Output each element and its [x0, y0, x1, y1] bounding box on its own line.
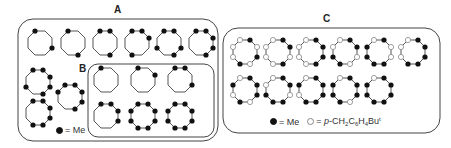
benzyl-dot-icon — [270, 75, 275, 80]
octagon-b-2 — [168, 65, 195, 92]
methyl-dot-icon — [354, 92, 359, 97]
benzyl-dot-icon — [237, 75, 242, 80]
methyl-dot-icon — [247, 75, 252, 80]
methyl-dot-icon — [210, 35, 215, 40]
benzyl-dot-icon — [303, 37, 308, 42]
methyl-dot-icon — [152, 72, 157, 77]
methyl-dot-icon — [237, 61, 242, 66]
legend-c-me-text: = Me — [279, 117, 299, 127]
benzyl-dot-icon — [230, 92, 235, 97]
methyl-dot-icon — [203, 28, 208, 33]
methyl-dot-icon — [47, 74, 52, 79]
methyl-dot-icon — [161, 28, 166, 33]
filled-dot-icon — [270, 118, 277, 125]
methyl-dot-icon — [381, 75, 386, 80]
benzyl-dot-icon — [337, 37, 342, 42]
open-dot-icon — [307, 118, 314, 125]
methyl-dot-icon — [79, 99, 84, 104]
methyl-dot-icon — [23, 84, 28, 89]
methyl-dot-icon — [172, 125, 177, 130]
methyl-dot-icon — [330, 92, 335, 97]
methyl-dot-icon — [313, 99, 318, 104]
octagon-a-4 — [154, 28, 183, 57]
methyl-dot-icon — [40, 67, 45, 72]
methyl-dot-icon — [354, 44, 359, 49]
methyl-dot-icon — [40, 91, 45, 96]
octagon-a-2 — [93, 28, 117, 57]
methyl-dot-icon — [313, 75, 318, 80]
methyl-dot-icon — [72, 106, 77, 111]
methyl-dot-icon — [337, 61, 342, 66]
methyl-dot-icon — [115, 108, 120, 113]
octagon-c-10 — [364, 75, 393, 104]
methyl-dot-icon — [415, 37, 420, 42]
methyl-dot-icon — [254, 54, 259, 59]
benzyl-dot-icon — [230, 44, 235, 49]
methyl-dot-icon — [254, 82, 259, 87]
octagon-b-3 — [94, 101, 121, 128]
methyl-dot-icon — [287, 44, 292, 49]
benzyl-dot-icon — [354, 54, 359, 59]
methyl-dot-icon — [165, 108, 170, 113]
methyl-dot-icon — [65, 28, 70, 33]
methyl-dot-icon — [347, 75, 352, 80]
panel-b-label: B — [79, 63, 86, 74]
octagon-b-5 — [165, 101, 194, 130]
methyl-dot-icon — [98, 101, 103, 106]
methyl-dot-icon — [30, 122, 35, 127]
methyl-dot-icon — [152, 118, 157, 123]
methyl-dot-icon — [371, 99, 376, 104]
methyl-dot-icon — [330, 54, 335, 59]
methyl-dot-icon — [230, 82, 235, 87]
benzyl-dot-icon — [296, 92, 301, 97]
methyl-dot-icon — [47, 105, 52, 110]
methyl-dot-icon — [280, 75, 285, 80]
octagon-a-7 — [55, 82, 84, 111]
methyl-dot-icon — [320, 44, 325, 49]
methyl-dot-icon — [171, 52, 176, 57]
methyl-dot-icon — [145, 125, 150, 130]
methyl-dot-icon — [72, 82, 77, 87]
benzyl-dot-icon — [230, 54, 235, 59]
methyl-dot-icon — [146, 35, 151, 40]
benzyl-dot-icon — [388, 54, 393, 59]
benzyl-dot-icon — [371, 75, 376, 80]
methyl-dot-icon — [30, 67, 35, 72]
benzyl-dot-icon — [287, 92, 292, 97]
methyl-dot-icon — [49, 45, 54, 50]
benzyl-dot-icon — [330, 44, 335, 49]
methyl-dot-icon — [135, 101, 140, 106]
methyl-dot-icon — [128, 118, 133, 123]
methyl-dot-icon — [135, 125, 140, 130]
methyl-dot-icon — [172, 101, 177, 106]
benzyl-dot-icon — [270, 61, 275, 66]
methyl-dot-icon — [313, 61, 318, 66]
benzyl-dot-icon — [263, 54, 268, 59]
benzyl-dot-icon — [270, 37, 275, 42]
methyl-dot-icon — [30, 98, 35, 103]
benzyl-dot-icon — [371, 37, 376, 42]
benzyl-dot-icon — [398, 44, 403, 49]
benzyl-dot-icon — [247, 99, 252, 104]
methyl-dot-icon — [172, 65, 177, 70]
benzyl-dot-icon — [303, 61, 308, 66]
octagon-a-8 — [26, 98, 53, 127]
legend-c: = Me = p-CH2C6H4But — [270, 116, 381, 127]
methyl-dot-icon — [422, 44, 427, 49]
methyl-dot-icon — [32, 28, 37, 33]
methyl-dot-icon — [210, 45, 215, 50]
methyl-dot-icon — [182, 125, 187, 130]
octagon-a-1 — [61, 28, 85, 57]
benzyl-dot-icon — [296, 54, 301, 59]
methyl-dot-icon — [237, 99, 242, 104]
legend-a: = Me — [56, 125, 85, 135]
methyl-dot-icon — [182, 101, 187, 106]
methyl-dot-icon — [280, 61, 285, 66]
methyl-dot-icon — [108, 101, 113, 106]
methyl-dot-icon — [313, 37, 318, 42]
octagon-c-6 — [230, 75, 259, 104]
methyl-dot-icon — [128, 108, 133, 113]
legend-a-me-text: = Me — [65, 125, 85, 135]
benzyl-dot-icon — [388, 44, 393, 49]
benzyl-dot-icon — [263, 44, 268, 49]
